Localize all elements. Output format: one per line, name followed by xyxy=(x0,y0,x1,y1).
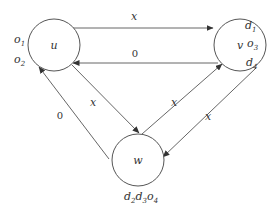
node-w-annotation: d2d3o4 xyxy=(124,190,158,205)
node-u-annotation-o1: o1 xyxy=(14,33,25,48)
node-v-annotation-d1: d1 xyxy=(245,19,257,34)
edge-u-to-w xyxy=(72,65,139,133)
edge-w-to-u xyxy=(39,67,109,159)
node-w-label: w xyxy=(133,154,143,167)
node-v-label: v xyxy=(237,39,244,52)
graph-diagram: u v w x 0 x 0 x x o1 o2 d1 o3 d4 d2d3o4 xyxy=(0,0,271,213)
edge-w-to-v-label: x xyxy=(171,96,178,109)
edge-v-to-w-label: x xyxy=(205,110,212,123)
edge-w-to-u-label: 0 xyxy=(57,110,63,121)
edge-u-to-v-label: x xyxy=(131,10,138,23)
edge-w-to-v xyxy=(142,64,222,134)
node-u-label: u xyxy=(50,39,57,52)
edge-u-to-w-label: x xyxy=(90,96,97,109)
edge-v-to-u-label: 0 xyxy=(132,48,138,59)
node-u-annotation-o2: o2 xyxy=(14,53,26,68)
